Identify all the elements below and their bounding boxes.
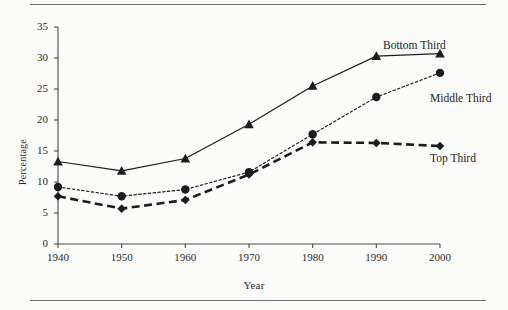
y-tick-35: 35 (22, 20, 48, 32)
x-tick-1990: 1990 (351, 251, 401, 263)
series-bottom-third (53, 49, 445, 175)
y-tick-15: 15 (22, 144, 48, 156)
series-label-top-third: Top Third (430, 152, 502, 164)
x-tick-1950: 1950 (97, 251, 147, 263)
series-top-third (54, 138, 445, 213)
x-tick-1980: 1980 (288, 251, 338, 263)
y-tick-25: 25 (22, 82, 48, 94)
x-tick-1960: 1960 (160, 251, 210, 263)
y-tick-30: 30 (22, 51, 48, 63)
series-label-bottom-third: Bottom Third (383, 39, 446, 51)
figure-container: Percentage Year 05101520253035 194019501… (0, 0, 508, 310)
y-tick-0: 0 (22, 237, 48, 249)
y-tick-5: 5 (22, 206, 48, 218)
y-tick-20: 20 (22, 113, 48, 125)
x-axis-label: Year (0, 279, 508, 291)
series-middle-third (54, 69, 444, 201)
x-tick-2000: 2000 (415, 251, 465, 263)
x-tick-1940: 1940 (33, 251, 83, 263)
y-tick-10: 10 (22, 175, 48, 187)
x-tick-1970: 1970 (224, 251, 274, 263)
series-label-middle-third: Middle Third (430, 92, 502, 104)
